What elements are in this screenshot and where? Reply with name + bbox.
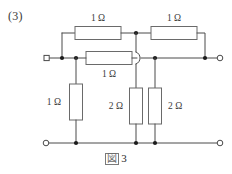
resistor-top-left-label: 1 Ω bbox=[91, 13, 105, 23]
figure-container: (3) bbox=[0, 0, 232, 174]
resistor-shunt-left-body bbox=[70, 84, 83, 120]
node-bottom-mid bbox=[134, 141, 138, 145]
figure-glyph-box: 図 bbox=[105, 153, 119, 165]
terminal-left-icon[interactable] bbox=[44, 55, 49, 60]
resistor-shunt-mid-body bbox=[130, 88, 143, 124]
terminal-right-icon[interactable] bbox=[217, 55, 223, 61]
resistor-shunt-left-label: 1 Ω bbox=[47, 97, 61, 107]
resistor-middle-label: 1 Ω bbox=[102, 69, 116, 79]
figure-caption: 図3 bbox=[0, 152, 232, 165]
resistor-shunt-right-label: 2 Ω bbox=[168, 101, 182, 111]
resistor-shunt-mid-label: 2 Ω bbox=[109, 101, 123, 111]
resistor-top-left-body bbox=[75, 27, 121, 40]
resistor-shunt-right-body bbox=[149, 88, 162, 124]
circuit-diagram: 1 Ω 1 Ω 1 Ω 1 Ω 2 Ω 2 Ω bbox=[0, 0, 232, 174]
node-right-outer bbox=[203, 56, 207, 60]
terminal-bottom-right-icon[interactable] bbox=[217, 140, 223, 146]
node-bottom-left bbox=[74, 141, 78, 145]
terminal-bottom-left-icon[interactable] bbox=[43, 140, 49, 146]
figure-number: 3 bbox=[121, 152, 127, 164]
resistor-middle-body bbox=[86, 52, 132, 65]
resistor-top-right-label: 1 Ω bbox=[167, 13, 181, 23]
resistor-top-right-body bbox=[151, 27, 197, 40]
wire-top-right-drop bbox=[197, 33, 205, 58]
node-bottom-right bbox=[153, 141, 157, 145]
node-left-outer bbox=[60, 56, 64, 60]
